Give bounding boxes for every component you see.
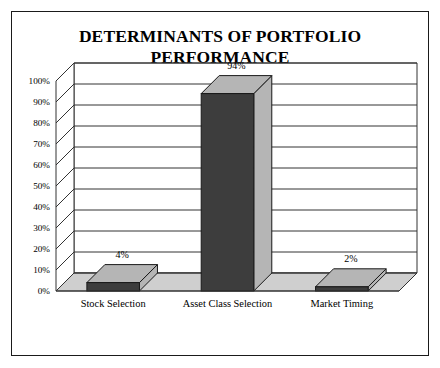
y-axis-tick-label: 20% xyxy=(33,244,50,254)
bar-chart-plot: 0%10%20%30%40%50%60%70%80%90%100% 4%94%2… xyxy=(11,11,429,356)
y-axis-tick-label: 70% xyxy=(33,139,50,149)
y-axis-tick-label: 90% xyxy=(33,97,50,107)
bar-value-label: 2% xyxy=(344,253,357,264)
bar-front-face xyxy=(201,94,254,291)
bar-2 xyxy=(201,76,272,291)
y-axis-tick-label: 50% xyxy=(33,181,50,191)
y-axis-tick-label: 80% xyxy=(33,118,50,128)
y-axis-tick-labels: 0%10%20%30%40%50%60%70%80%90%100% xyxy=(29,76,51,296)
category-axis-label: Stock Selection xyxy=(81,298,147,309)
bar-value-label: 4% xyxy=(115,249,128,260)
y-axis-tick-label: 0% xyxy=(38,286,51,296)
y-axis-tick-label: 10% xyxy=(33,265,50,275)
y-axis-tick-label: 40% xyxy=(33,202,50,212)
y-axis-tick-label: 30% xyxy=(33,223,50,233)
chart-figure: DETERMINANTS OF PORTFOLIO PERFORMANCE 0%… xyxy=(0,0,440,368)
y-axis-tick-label: 100% xyxy=(29,76,51,86)
y-axis-tick-label: 60% xyxy=(33,160,50,170)
bar-front-face xyxy=(87,283,140,291)
category-axis-label: Market Timing xyxy=(311,298,374,309)
category-axis-label: Asset Class Selection xyxy=(183,298,273,309)
bar-value-label: 94% xyxy=(227,60,245,71)
bar-front-face xyxy=(316,287,369,291)
bar-side-face xyxy=(254,76,272,291)
category-labels-group: Stock SelectionAsset Class SelectionMark… xyxy=(81,298,373,309)
